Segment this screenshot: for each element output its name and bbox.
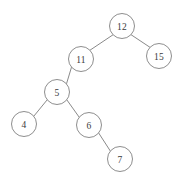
node-label-7: 7 xyxy=(118,155,123,165)
tree-node-12[interactable]: 12 xyxy=(110,14,135,39)
tree-edge-6-7 xyxy=(99,133,110,151)
tree-node-4[interactable]: 4 xyxy=(12,112,37,137)
tree-edge-5-4 xyxy=(34,100,47,116)
node-layer: 1215115467 xyxy=(12,14,172,172)
tree-edge-12-15 xyxy=(130,34,151,48)
node-label-6: 6 xyxy=(87,121,92,131)
tree-edge-5-6 xyxy=(67,100,79,117)
tree-graphic: 1215115467 xyxy=(0,0,179,183)
tree-node-6[interactable]: 6 xyxy=(77,113,102,138)
tree-node-15[interactable]: 15 xyxy=(147,44,172,69)
node-label-4: 4 xyxy=(22,120,27,130)
tree-edge-12-11 xyxy=(90,35,113,50)
node-label-11: 11 xyxy=(76,55,86,65)
tree-edge-11-5 xyxy=(67,67,72,84)
tree-node-7[interactable]: 7 xyxy=(108,147,133,172)
node-label-12: 12 xyxy=(117,22,127,32)
tree-node-11[interactable]: 11 xyxy=(69,47,94,72)
tree-node-5[interactable]: 5 xyxy=(45,80,70,105)
node-label-5: 5 xyxy=(55,88,60,98)
node-label-15: 15 xyxy=(154,52,164,62)
bst-diagram-canvas: 1215115467 xyxy=(0,0,179,183)
